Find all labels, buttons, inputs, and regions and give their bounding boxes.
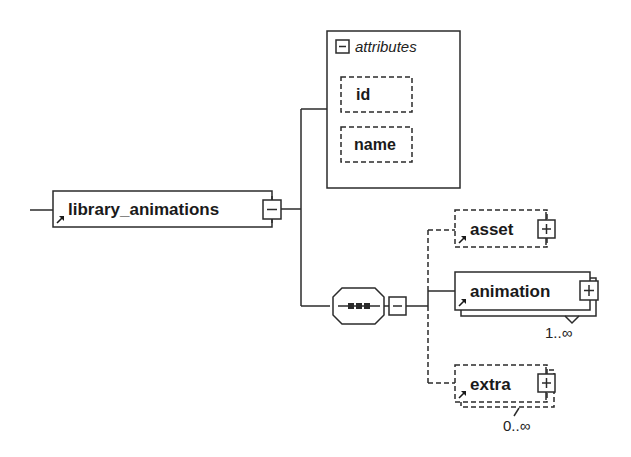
child-asset-label[interactable]: asset (470, 221, 513, 238)
animation-multiplicity-marker (565, 316, 579, 323)
attribute-id-label[interactable]: id (356, 87, 370, 103)
child-animation-label[interactable]: animation (470, 283, 550, 300)
animation-cardinality: 1..∞ (545, 325, 572, 340)
attributes-group-title: attributes (355, 39, 417, 54)
child-extra-label[interactable]: extra (470, 376, 511, 393)
root-element-label[interactable]: library_animations (68, 201, 219, 218)
attributes-collapse-icon[interactable] (336, 40, 349, 53)
schema-diagram (0, 0, 631, 457)
attribute-name-label[interactable]: name (354, 137, 396, 153)
sequence-collapse-icon[interactable] (389, 297, 406, 315)
animation-expand-icon[interactable] (580, 281, 598, 300)
extra-multiplicity-marker (514, 408, 519, 416)
sequence-icon (348, 303, 370, 309)
extra-cardinality: 0..∞ (503, 418, 530, 433)
root-collapse-icon[interactable] (263, 196, 281, 223)
